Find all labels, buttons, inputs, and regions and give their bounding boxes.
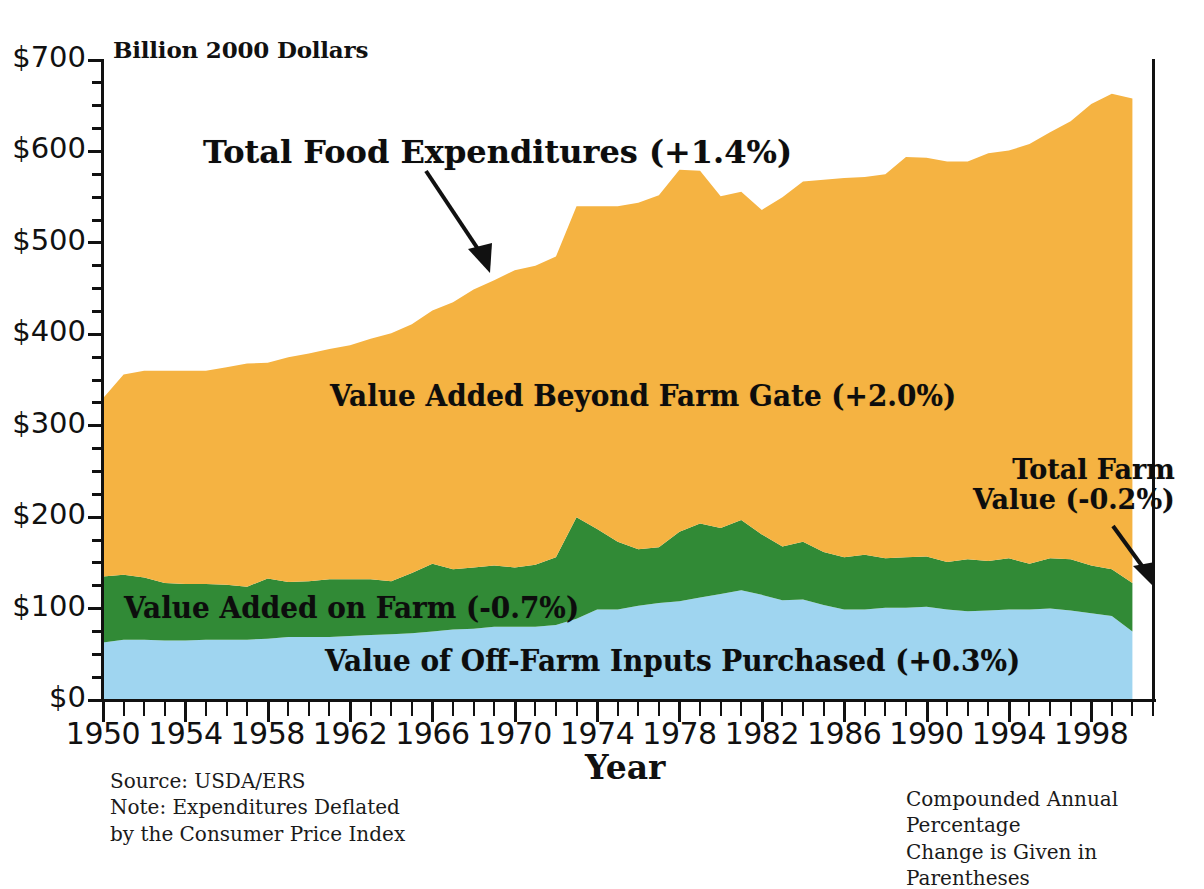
x-tick-minor <box>226 702 228 716</box>
y-tick-minor <box>92 356 104 359</box>
y-axis-tick-label: $0 <box>0 680 86 714</box>
y-tick-minor <box>92 173 104 176</box>
annotation-value-of-off-farm-inputs: Value of Off-Farm Inputs Purchased (+0.3… <box>325 643 1020 678</box>
y-tick-minor <box>92 447 104 450</box>
y-tick-minor <box>92 127 104 130</box>
y-tick-minor <box>92 401 104 404</box>
x-tick-minor <box>1152 702 1154 716</box>
x-tick-minor <box>328 702 330 716</box>
x-tick-minor <box>637 702 639 716</box>
x-axis-title: Year <box>585 748 665 787</box>
x-axis-tick-label: 1982 <box>725 716 799 751</box>
x-axis-line <box>101 699 1156 702</box>
y-axis-tick-label: $700 <box>0 40 86 74</box>
x-axis-tick-label: 1954 <box>148 716 222 751</box>
y-tick-major <box>88 241 104 244</box>
x-tick-minor <box>617 702 619 716</box>
x-tick-minor <box>452 702 454 716</box>
y-tick-minor <box>92 104 104 107</box>
plot-right-border <box>1152 59 1155 702</box>
x-tick-minor <box>740 702 742 716</box>
y-tick-minor <box>92 264 104 267</box>
x-axis-tick-label: 1986 <box>807 716 881 751</box>
x-tick-minor <box>905 702 907 716</box>
x-axis-tick-label: 1994 <box>972 716 1046 751</box>
x-tick-minor <box>1070 702 1072 716</box>
x-axis-tick-label: 1998 <box>1054 716 1128 751</box>
x-tick-minor <box>411 702 413 716</box>
y-tick-minor <box>92 561 104 564</box>
annotation-value-added-on-farm: Value Added on Farm (-0.7%) <box>124 590 579 625</box>
x-tick-minor <box>473 702 475 716</box>
y-tick-minor <box>92 196 104 199</box>
y-tick-minor <box>92 470 104 473</box>
x-tick-minor <box>781 702 783 716</box>
x-tick-minor <box>370 702 372 716</box>
x-tick-minor <box>164 702 166 716</box>
x-axis-tick-label: 1990 <box>889 716 963 751</box>
x-tick-minor <box>658 702 660 716</box>
y-axis-unit-title: Billion 2000 Dollars <box>113 36 368 63</box>
y-axis-tick-label: $300 <box>0 406 86 440</box>
percentage-change-note: Compounded Annual Percentage Change is G… <box>906 786 1204 889</box>
x-tick-minor <box>1131 702 1133 716</box>
y-tick-major <box>88 516 104 519</box>
x-tick-minor <box>390 702 392 716</box>
x-tick-minor <box>555 702 557 716</box>
y-tick-major <box>88 59 104 62</box>
x-tick-minor <box>287 702 289 716</box>
y-axis-tick-label: $500 <box>0 223 86 257</box>
x-axis-tick-label: 1978 <box>642 716 716 751</box>
y-tick-minor <box>92 219 104 222</box>
y-tick-minor <box>92 81 104 84</box>
y-axis-tick-label: $100 <box>0 589 86 623</box>
y-axis-tick-label: $200 <box>0 497 86 531</box>
x-tick-minor <box>967 702 969 716</box>
y-tick-major <box>88 333 104 336</box>
annotation-total-farm-value: Total Farm Value (-0.2%) <box>973 455 1175 515</box>
x-tick-minor <box>1028 702 1030 716</box>
y-tick-minor <box>92 379 104 382</box>
x-tick-minor <box>308 702 310 716</box>
x-tick-minor <box>1049 702 1051 716</box>
x-tick-minor <box>143 702 145 716</box>
x-tick-minor <box>802 702 804 716</box>
x-tick-minor <box>720 702 722 716</box>
y-tick-minor <box>92 539 104 542</box>
x-axis-tick-label: 1974 <box>560 716 634 751</box>
y-axis-tick-label: $600 <box>0 131 86 165</box>
x-axis-tick-label: 1962 <box>313 716 387 751</box>
y-tick-minor <box>92 653 104 656</box>
x-tick-minor <box>493 702 495 716</box>
x-axis-tick-label: 1970 <box>478 716 552 751</box>
y-tick-minor <box>92 676 104 679</box>
x-tick-minor <box>823 702 825 716</box>
source-note: Source: USDA/ERS Note: Expenditures Defl… <box>110 768 405 847</box>
y-tick-major <box>88 150 104 153</box>
y-tick-minor <box>92 493 104 496</box>
annotation-total-food-expenditures: Total Food Expenditures (+1.4%) <box>203 133 792 171</box>
x-tick-minor <box>246 702 248 716</box>
x-axis-tick-label: 1958 <box>231 716 305 751</box>
y-tick-major <box>88 607 104 610</box>
annotation-value-added-beyond-farm-gate: Value Added Beyond Farm Gate (+2.0%) <box>330 378 956 413</box>
x-tick-minor <box>699 702 701 716</box>
y-tick-minor <box>92 630 104 633</box>
x-tick-minor <box>576 702 578 716</box>
x-tick-minor <box>1111 702 1113 716</box>
y-axis-tick-label: $400 <box>0 314 86 348</box>
x-tick-minor <box>946 702 948 716</box>
x-axis-tick-label: 1966 <box>395 716 469 751</box>
x-tick-minor <box>534 702 536 716</box>
x-tick-minor <box>123 702 125 716</box>
x-tick-minor <box>884 702 886 716</box>
y-tick-major <box>88 424 104 427</box>
x-axis-tick-label: 1950 <box>66 716 140 751</box>
x-tick-minor <box>864 702 866 716</box>
y-tick-minor <box>92 287 104 290</box>
y-tick-minor <box>92 310 104 313</box>
x-tick-minor <box>205 702 207 716</box>
x-tick-minor <box>987 702 989 716</box>
y-tick-minor <box>92 584 104 587</box>
